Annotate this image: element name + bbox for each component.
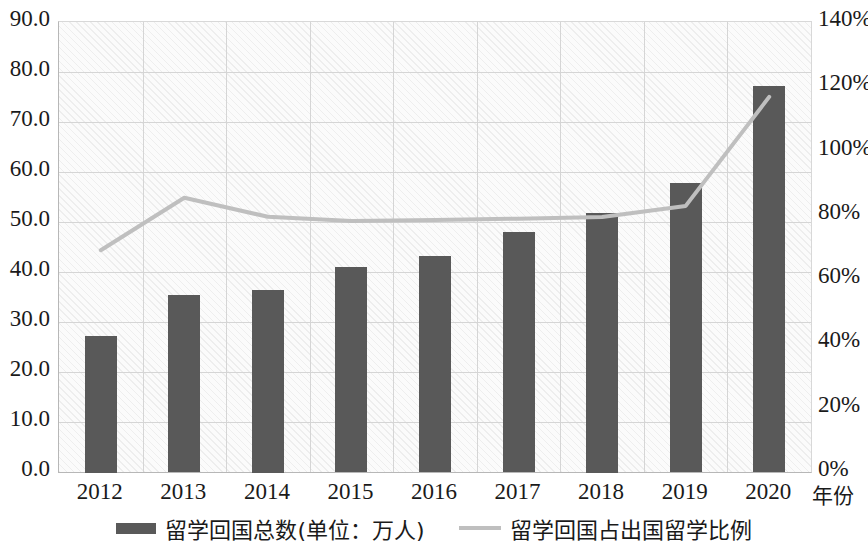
bar-swatch-icon xyxy=(116,523,156,534)
legend-item-line-series[interactable]: 留学回国占出国留学比例 xyxy=(459,512,752,544)
y-axis-left-tick-label: 0.0 xyxy=(0,456,50,482)
y-axis-left-tick-label: 60.0 xyxy=(0,156,50,182)
x-axis-tick-2013: 2013 xyxy=(143,479,223,505)
y-axis-right-tick-label: 40% xyxy=(818,327,868,353)
y-axis-left-tick-label: 40.0 xyxy=(0,256,50,282)
y-axis-right-tick-label: 120% xyxy=(818,70,868,96)
plot-area xyxy=(58,21,812,473)
line-series xyxy=(59,22,811,472)
x-axis-tick-2020: 2020 xyxy=(728,479,808,505)
chart-container: 0.010.020.030.040.050.060.070.080.090.0 … xyxy=(0,0,868,544)
x-axis-tick-2019: 2019 xyxy=(645,479,725,505)
y-axis-left-tick-label: 50.0 xyxy=(0,206,50,232)
y-axis-left-tick-label: 20.0 xyxy=(0,356,50,382)
y-axis-right-tick-label: 60% xyxy=(818,263,868,289)
y-axis-left-tick-label: 80.0 xyxy=(0,56,50,82)
legend-label-bar-series: 留学回国总数(单位：万人) xyxy=(165,512,424,544)
y-axis-right-tick-label: 140% xyxy=(818,6,868,32)
x-axis-tick-2016: 2016 xyxy=(394,479,474,505)
y-axis-left-tick-label: 70.0 xyxy=(0,106,50,132)
x-axis-tick-2015: 2015 xyxy=(310,479,390,505)
x-axis-tick-2017: 2017 xyxy=(478,479,558,505)
y-axis-right-tick-label: 20% xyxy=(818,392,868,418)
x-axis-tick-2014: 2014 xyxy=(227,479,307,505)
chart-legend: 留学回国总数(单位：万人) 留学回国占出国留学比例 xyxy=(0,512,868,544)
y-axis-right-tick-label: 100% xyxy=(818,135,868,161)
x-axis-tick-2018: 2018 xyxy=(561,479,641,505)
y-axis-left-tick-label: 10.0 xyxy=(0,406,50,432)
y-axis-left-tick-label: 90.0 xyxy=(0,6,50,32)
x-axis-title: 年份 xyxy=(812,479,854,509)
y-axis-right-tick-label: 80% xyxy=(818,199,868,225)
x-axis-tick-2012: 2012 xyxy=(60,479,140,505)
legend-item-bar-series[interactable]: 留学回国总数(单位：万人) xyxy=(116,512,424,544)
line-swatch-icon xyxy=(459,526,501,530)
legend-label-line-series: 留学回国占出国留学比例 xyxy=(510,512,752,544)
y-axis-left-tick-label: 30.0 xyxy=(0,306,50,332)
